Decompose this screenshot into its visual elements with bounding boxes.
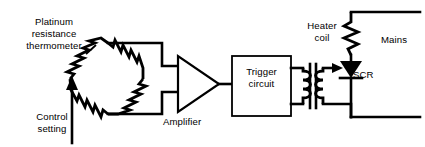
label-scr: SCR [353,69,374,81]
amplifier-symbol [178,56,219,112]
wire-transformer-to-scr-gate [323,63,343,73]
label-platinum-line1: Platinum [12,16,96,28]
wire-transformer-secondary-return [323,104,351,117]
label-mains: Mains [381,34,407,46]
scr-symbol [340,55,362,117]
heater-coil-resistor [344,12,358,55]
label-heater-line2: coil [300,32,344,44]
label-heater-coil: Heater coil [300,20,344,44]
label-platinum-line2: resistance [12,28,96,40]
label-trigger-circuit: Trigger circuit [235,66,288,90]
label-control-line1: Control [23,111,81,123]
label-trigger-line1: Trigger [235,66,288,78]
bridge-resistor-bottom-right [108,79,146,114]
label-control-line2: setting [23,123,81,135]
label-amplifier: Amplifier [163,116,201,128]
bridge-resistor-top-right [108,40,143,79]
label-platinum-line3: thermometer [12,40,96,52]
circuit-diagram: Platinum resistance thermometer Control … [0,0,425,147]
label-control-setting: Control setting [23,111,81,135]
wire-bridge-bottom-to-amplifier [108,92,178,114]
wire-trigger-to-transformer [291,68,303,104]
label-platinum-resistance-thermometer: Platinum resistance thermometer [12,16,96,53]
label-trigger-line2: circuit [235,78,288,90]
label-heater-line1: Heater [300,20,344,32]
